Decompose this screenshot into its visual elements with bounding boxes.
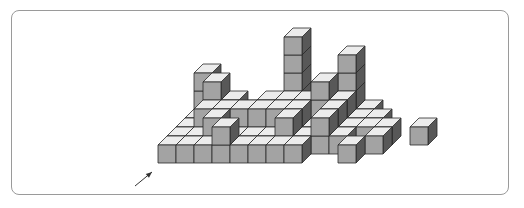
view-direction-arrow-icon — [135, 172, 152, 186]
cube-front-face — [230, 145, 248, 163]
cube-front-face — [311, 136, 329, 154]
cube-front-face — [284, 37, 302, 55]
cube-front-face — [338, 55, 356, 73]
cube-front-face — [311, 118, 329, 136]
cube-front-face — [284, 73, 302, 91]
cube-front-face — [365, 136, 383, 154]
cube-front-face — [203, 82, 221, 100]
cube-front-face — [176, 145, 194, 163]
unit-cube — [410, 118, 437, 145]
cube-front-face — [266, 145, 284, 163]
cube-front-face — [212, 127, 230, 145]
cube-front-face — [248, 109, 266, 127]
cube-front-face — [248, 145, 266, 163]
cube-stack-group — [158, 28, 437, 163]
cube-front-face — [338, 73, 356, 91]
cube-front-face — [158, 145, 176, 163]
cube-front-face — [284, 145, 302, 163]
cube-front-face — [194, 145, 212, 163]
cube-front-face — [275, 118, 293, 136]
cube-structure-diagram — [0, 0, 524, 208]
cube-front-face — [338, 145, 356, 163]
cube-front-face — [212, 145, 230, 163]
cube-front-face — [284, 55, 302, 73]
cube-front-face — [311, 82, 329, 100]
cube-front-face — [410, 127, 428, 145]
